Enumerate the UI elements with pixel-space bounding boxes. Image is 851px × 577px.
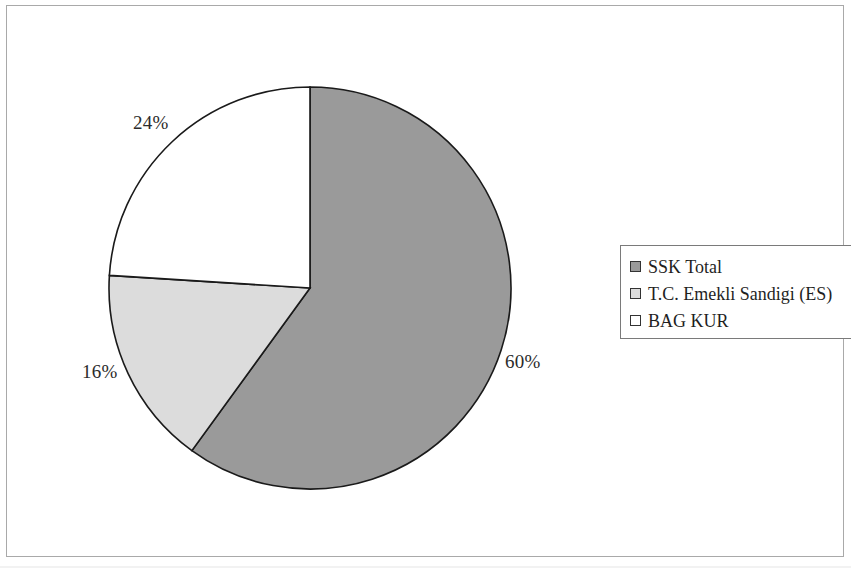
- chart-legend: SSK Total T.C. Emekli Sandigi (ES) BAG K…: [620, 245, 851, 339]
- data-label-emekli-sandigi: 16%: [82, 361, 117, 383]
- pie-chart-figure: 24% 16% 60% SSK Total T.C. Emekli Sandig…: [0, 0, 851, 577]
- legend-label-emekli-sandigi: T.C. Emekli Sandigi (ES): [648, 285, 832, 303]
- legend-swatch-icon-ssk-total: [630, 261, 641, 272]
- legend-label-bag-kur: BAG KUR: [648, 312, 729, 330]
- legend-item-emekli-sandigi[interactable]: T.C. Emekli Sandigi (ES): [630, 280, 851, 307]
- legend-swatch-icon-emekli-sandigi: [630, 288, 641, 299]
- legend-item-bag-kur[interactable]: BAG KUR: [630, 307, 851, 334]
- scan-edge-artifact: [0, 566, 851, 568]
- legend-swatch-icon-bag-kur: [630, 315, 641, 326]
- data-label-ssk-total: 60%: [505, 351, 540, 373]
- legend-item-ssk-total[interactable]: SSK Total: [630, 253, 851, 280]
- data-label-bag-kur: 24%: [133, 112, 168, 134]
- legend-label-ssk-total: SSK Total: [648, 258, 722, 276]
